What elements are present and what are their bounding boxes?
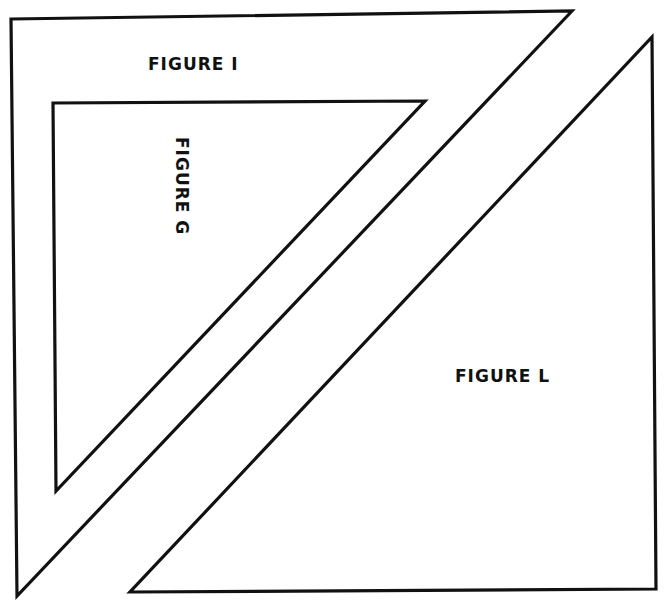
figure-l-label: FIGURE L bbox=[455, 366, 550, 386]
figure-i-label: FIGURE I bbox=[148, 54, 239, 74]
tangram-diagram: FIGURE I FIGURE G FIGURE L bbox=[0, 0, 667, 601]
figure-g-label: FIGURE G bbox=[172, 137, 192, 235]
